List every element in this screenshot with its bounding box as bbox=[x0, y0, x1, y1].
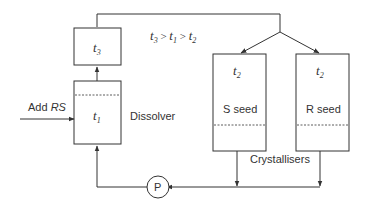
crystallisers-label: Crystallisers bbox=[250, 153, 310, 165]
crystalliser-s-temp: t2 bbox=[233, 63, 241, 80]
pump-label: P bbox=[154, 181, 161, 193]
crystalliser-r-seed-label: R seed bbox=[306, 103, 341, 115]
heater-box bbox=[74, 28, 121, 65]
feed-label: Add RS bbox=[28, 101, 67, 113]
dissolver-box bbox=[74, 81, 121, 144]
dissolver-temp: t1 bbox=[93, 108, 101, 125]
top-pipe bbox=[97, 14, 319, 53]
heater-temp: t3 bbox=[93, 40, 101, 57]
dissolver-label: Dissolver bbox=[130, 110, 176, 122]
crystalliser-r-temp: t2 bbox=[316, 63, 324, 80]
crystalliser-s-seed-label: S seed bbox=[223, 103, 257, 115]
process-diagram: t3 t1 Dissolver Add RS t3 > t1 > t2 t2 S… bbox=[0, 0, 368, 211]
temperature-condition: t3 > t1 > t2 bbox=[150, 28, 196, 45]
